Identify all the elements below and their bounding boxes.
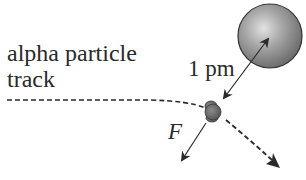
alpha-scattering-diagram: alpha particle track 1 pm F xyxy=(0,0,306,180)
track-label-line1: alpha particle xyxy=(7,40,137,66)
distance-label: 1 pm xyxy=(188,57,235,80)
force-arrow xyxy=(182,123,206,160)
force-label: F xyxy=(168,120,182,143)
alpha-track-deflected-path xyxy=(226,120,272,160)
track-label: alpha particle track xyxy=(7,40,137,92)
track-arrowhead-icon xyxy=(266,153,280,168)
alpha-particle xyxy=(205,101,221,122)
alpha-track-path xyxy=(7,100,205,108)
nucleus-sphere xyxy=(238,4,302,68)
track-label-line2: track xyxy=(7,66,137,92)
